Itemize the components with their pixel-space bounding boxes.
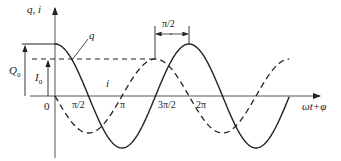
phase-shift-label: π/2 bbox=[162, 19, 175, 29]
q-curve-label: q bbox=[89, 30, 95, 41]
y-axis-label: q, i bbox=[27, 4, 41, 15]
x-tick-2pi: 2π bbox=[196, 100, 206, 110]
i-curve-label: i bbox=[106, 78, 109, 89]
q0-label: Q0 bbox=[9, 65, 20, 79]
lc-oscillation-diagram: q, i q i Q0 I0 0 π/2 π/2 π 3π/2 2π ωt+φ bbox=[0, 0, 341, 161]
x-tick-3pi-half: 3π/2 bbox=[158, 100, 176, 110]
q-label-pointer bbox=[72, 39, 88, 60]
origin-label: 0 bbox=[44, 101, 50, 112]
x-tick-pi-half: π/2 bbox=[72, 100, 85, 110]
x-axis-label: ωt+φ bbox=[302, 101, 326, 112]
i0-label: I0 bbox=[35, 72, 42, 86]
x-tick-pi: π bbox=[120, 100, 125, 110]
